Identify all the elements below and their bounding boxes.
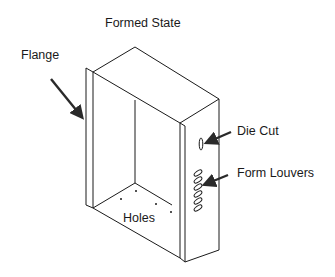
form-louvers	[193, 169, 203, 212]
hole	[120, 198, 122, 200]
louver	[193, 176, 203, 184]
louver	[193, 183, 203, 191]
louver	[193, 197, 203, 205]
hole	[135, 190, 137, 192]
louvers-arrow-icon	[206, 175, 228, 184]
box-outline	[86, 47, 219, 262]
hole	[170, 211, 172, 213]
holes	[120, 190, 172, 213]
louver	[193, 190, 203, 198]
box-drawing	[0, 0, 335, 277]
flange-arrow-icon	[51, 79, 81, 116]
hole	[155, 203, 157, 205]
louver	[193, 169, 203, 177]
louver	[193, 204, 203, 212]
die-cut	[199, 138, 203, 150]
